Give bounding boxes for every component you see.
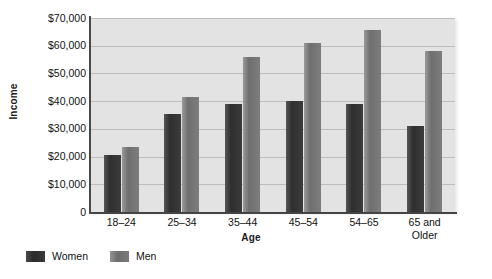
bar-women	[407, 126, 424, 212]
bar-men	[425, 51, 442, 212]
y-axis-tick-label: $10,000	[26, 179, 86, 190]
bar-men	[182, 97, 199, 212]
y-axis-tick-labels: $70,000$60,000$50,000$40,000$30,000$20,0…	[26, 12, 86, 212]
y-axis-tick-label: $60,000	[26, 40, 86, 51]
y-axis-title: Income	[8, 67, 19, 137]
plot-area	[91, 18, 455, 212]
bar-women	[225, 104, 242, 212]
y-axis-tick-label: $50,000	[26, 68, 86, 79]
x-axis-tick-label: 35–44	[212, 216, 273, 229]
bar-group	[394, 18, 455, 212]
bar-women	[346, 104, 363, 212]
bars-layer	[91, 18, 455, 212]
y-axis-tick-label: $40,000	[26, 96, 86, 107]
bar-men	[243, 57, 260, 212]
x-axis-tick-label: 18–24	[91, 216, 152, 229]
y-axis-tick-label: 0	[26, 207, 86, 218]
y-axis-tick-label: $20,000	[26, 151, 86, 162]
bar-women	[286, 101, 303, 212]
legend-swatch-women	[26, 251, 45, 262]
x-axis-tick-label: 25–34	[152, 216, 213, 229]
legend-item-men[interactable]: Men	[110, 250, 156, 262]
legend-item-women[interactable]: Women	[26, 250, 88, 262]
bar-men	[364, 30, 381, 212]
bar-men	[122, 147, 139, 212]
x-axis-tick-label: 54–65	[334, 216, 395, 229]
chart-legend: WomenMen	[26, 250, 156, 262]
legend-label: Women	[52, 250, 88, 262]
x-axis-line	[89, 212, 457, 214]
bar-men	[304, 43, 321, 212]
y-axis-tick-label: $70,000	[26, 13, 86, 24]
bar-group	[152, 18, 213, 212]
bar-group	[273, 18, 334, 212]
bar-group	[212, 18, 273, 212]
bar-group	[334, 18, 395, 212]
y-axis-tick-label: $30,000	[26, 123, 86, 134]
legend-swatch-men	[110, 251, 129, 262]
bar-group	[91, 18, 152, 212]
legend-label: Men	[136, 250, 156, 262]
bar-women	[164, 114, 181, 212]
income-by-age-bar-chart: Income $70,000$60,000$50,000$40,000$30,0…	[0, 0, 492, 279]
x-axis-tick-label: 45–54	[273, 216, 334, 229]
bar-women	[104, 155, 121, 212]
x-axis-title: Age	[91, 232, 411, 243]
